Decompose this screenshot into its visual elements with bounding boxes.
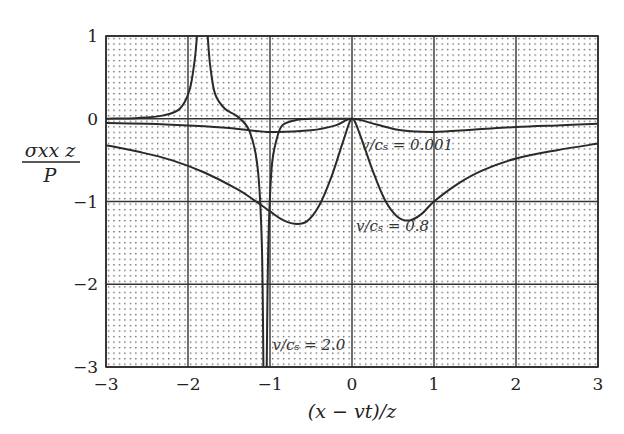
stress-chart: −3−2−10123 10−1−2−3 v/cₛ = 0.001v/cₛ = 0… bbox=[0, 0, 624, 434]
y-tick-label: −3 bbox=[73, 357, 98, 377]
y-axis-label-denominator: P bbox=[43, 164, 58, 186]
x-tick-label: 3 bbox=[593, 374, 604, 394]
y-tick-label: 1 bbox=[87, 26, 98, 46]
y-tick-labels: 10−1−2−3 bbox=[73, 26, 98, 377]
y-tick-label: −2 bbox=[73, 274, 98, 294]
y-tick-label: 0 bbox=[87, 109, 98, 129]
x-axis-label: (x − vt)/z bbox=[308, 400, 397, 422]
x-tick-labels: −3−2−10123 bbox=[93, 374, 603, 394]
series-label: v/cₛ = 0.001 bbox=[361, 136, 453, 154]
x-tick-label: −3 bbox=[93, 374, 118, 394]
x-tick-label: 1 bbox=[429, 374, 440, 394]
y-tick-label: −1 bbox=[73, 192, 98, 212]
y-axis-label-numerator: σxx z bbox=[25, 139, 76, 161]
x-tick-label: 2 bbox=[511, 374, 522, 394]
series-label: v/cₛ = 2.0 bbox=[272, 336, 345, 354]
x-tick-label: −2 bbox=[175, 374, 200, 394]
series-label: v/cₛ = 0.8 bbox=[356, 217, 429, 235]
y-axis-label: σxx z P bbox=[22, 139, 80, 186]
x-tick-label: −1 bbox=[257, 374, 282, 394]
x-tick-label: 0 bbox=[347, 374, 358, 394]
